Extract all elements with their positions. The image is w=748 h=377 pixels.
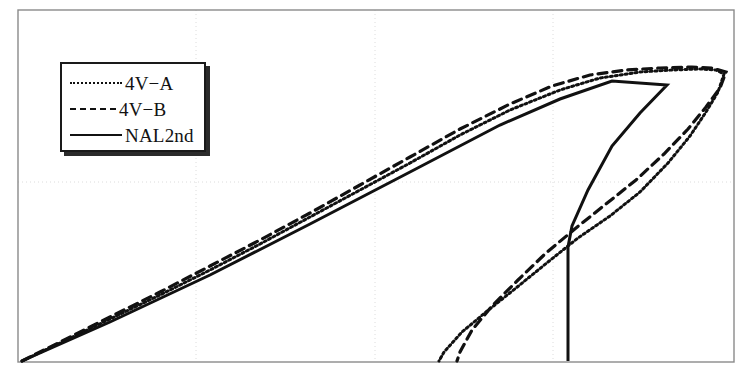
legend-sample-dotted-icon: [70, 82, 122, 84]
legend-entry-nal2nd: NAL2nd: [62, 122, 204, 148]
legend-label-4v-b: 4V−B: [119, 100, 166, 119]
legend-sample-solid-icon: [70, 134, 122, 136]
legend-entry-4v-a: 4V−A: [62, 70, 204, 96]
legend-label-4v-a: 4V−A: [125, 74, 173, 93]
legend-entry-4v-b: 4V−B: [62, 96, 204, 122]
legend-box: 4V−A 4V−B NAL2nd: [60, 62, 206, 152]
figure-container: 4V−A 4V−B NAL2nd: [0, 0, 748, 377]
plot-area: [0, 0, 748, 377]
legend-label-nal2nd: NAL2nd: [125, 126, 194, 145]
legend-sample-dashed-icon: [70, 108, 116, 110]
